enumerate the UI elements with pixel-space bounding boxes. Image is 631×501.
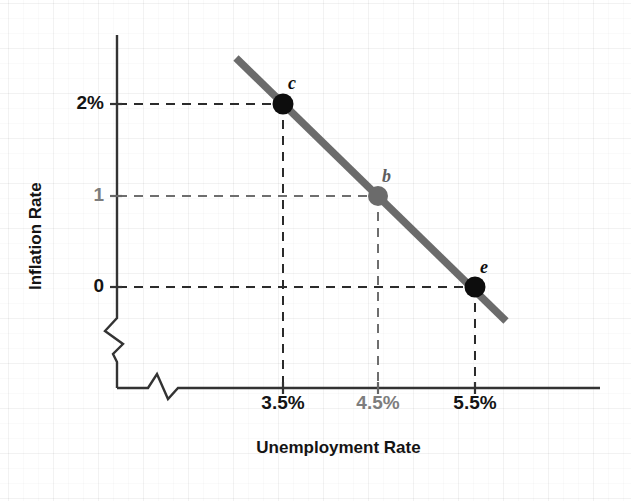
y-tick-label-1: 1 [52, 184, 104, 206]
data-point-e[interactable] [465, 277, 486, 298]
data-point-c[interactable] [273, 94, 294, 115]
point-label-c: c [288, 73, 296, 94]
x-axis-title: Unemployment Rate [0, 438, 631, 458]
plot-area [0, 0, 631, 501]
x-tick-label-4-5pct: 4.5% [328, 392, 428, 414]
x-tick-label-3-5pct: 3.5% [233, 392, 333, 414]
y-axis-title: Inflation Rate [26, 182, 46, 290]
point-label-e: e [480, 257, 488, 278]
point-label-b: b [382, 166, 391, 187]
y-tick-label-0: 0 [52, 275, 104, 297]
x-tick-label-5-5pct: 5.5% [425, 392, 525, 414]
y-tick-label-2pct: 2% [52, 92, 104, 114]
data-point-b[interactable] [368, 186, 388, 206]
phillips-curve-chart: 2% 1 0 3.5% 4.5% 5.5% c b e Inflation Ra… [0, 0, 631, 501]
y-axis-line [105, 35, 123, 388]
